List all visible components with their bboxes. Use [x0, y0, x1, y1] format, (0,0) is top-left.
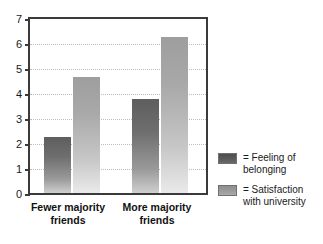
bar-chart-figure: 7 6 5 4 3 2 1 0 Fewer majority friends M… [0, 0, 323, 244]
bar-fewer-feeling-of-belonging[interactable] [44, 137, 71, 193]
y-axis-label-4: 4 [16, 89, 22, 100]
x-axis-label-fewer-majority-friends: Fewer majority friends [18, 201, 118, 226]
y-axis-label-6: 6 [16, 39, 22, 50]
x-axis-label-fewer-line1: Fewer majority [18, 201, 118, 214]
chart-legend: = Feeling of belonging = Satisfaction wi… [218, 152, 321, 216]
ytick-5 [25, 69, 30, 71]
x-axis-label-more-majority-friends: More majority friends [107, 201, 207, 226]
legend-label-feeling-of-belonging: = Feeling of belonging [243, 152, 296, 175]
x-axis-label-more-line1: More majority [107, 201, 207, 214]
bar-more-feeling-of-belonging[interactable] [132, 99, 159, 193]
ytick-0 [25, 194, 30, 196]
y-axis-label-5: 5 [16, 64, 22, 75]
light-gray-swatch-icon [218, 185, 237, 196]
ytick-7 [25, 19, 30, 21]
y-axis-label-1: 1 [16, 164, 22, 175]
ytick-3 [25, 119, 30, 121]
legend-item-satisfaction-with-university[interactable]: = Satisfaction with university [218, 184, 321, 207]
legend-label-satisfaction-with-university: = Satisfaction with university [243, 184, 306, 207]
plot-area: 7 6 5 4 3 2 1 0 [28, 17, 208, 195]
ytick-4 [25, 94, 30, 96]
bar-fewer-satisfaction-with-university[interactable] [73, 77, 100, 193]
y-axis-label-3: 3 [16, 114, 22, 125]
x-axis-label-more-line2: friends [107, 214, 207, 227]
y-axis-label-7: 7 [16, 14, 22, 25]
bar-more-satisfaction-with-university[interactable] [161, 37, 188, 193]
legend-item-feeling-of-belonging[interactable]: = Feeling of belonging [218, 152, 321, 175]
dark-gray-swatch-icon [218, 153, 237, 164]
x-axis-label-fewer-line2: friends [18, 214, 118, 227]
y-axis-label-2: 2 [16, 139, 22, 150]
ytick-2 [25, 144, 30, 146]
ytick-1 [25, 169, 30, 171]
y-axis-label-0: 0 [16, 189, 22, 200]
ytick-6 [25, 44, 30, 46]
